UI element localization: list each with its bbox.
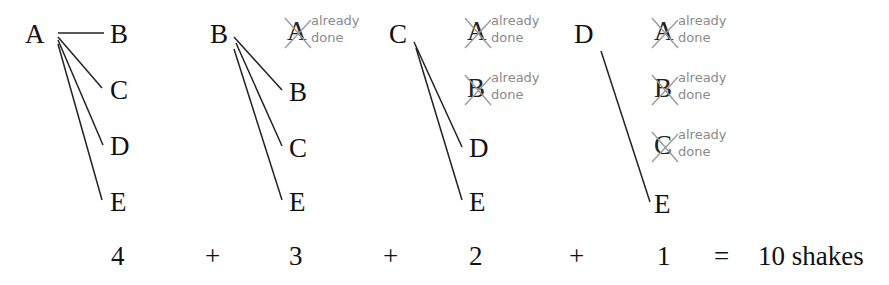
already-done-note: already done — [678, 69, 727, 103]
node-source-a: A — [25, 21, 45, 48]
cross-out-icon — [463, 73, 493, 107]
node-target: E — [289, 189, 306, 216]
connection-lines — [0, 0, 889, 285]
node-target: B — [110, 21, 128, 48]
already-done-marker: C already done — [654, 126, 744, 166]
already-done-note: already done — [678, 126, 727, 160]
equation-operator: + — [205, 243, 220, 270]
node-target: E — [469, 189, 486, 216]
cross-out-icon — [650, 130, 680, 164]
handshake-diagram: A B C D E B A already done B C E C A alr… — [0, 0, 889, 285]
node-target: E — [654, 191, 671, 218]
node-target: D — [469, 135, 489, 162]
node-source-b: B — [210, 21, 228, 48]
already-done-marker: A already done — [287, 12, 377, 52]
node-source-d: D — [574, 21, 594, 48]
node-target: C — [289, 135, 307, 162]
equation-result: 10 shakes — [758, 243, 864, 270]
equation-operator: + — [383, 243, 398, 270]
already-done-note: already done — [311, 12, 360, 46]
node-source-c: C — [389, 21, 407, 48]
already-done-marker: B already done — [654, 69, 744, 109]
equation-operator: + — [569, 243, 584, 270]
equation-term: 4 — [111, 243, 125, 270]
already-done-note: already done — [491, 69, 540, 103]
cross-out-icon — [463, 16, 493, 50]
equation-term: 2 — [469, 243, 483, 270]
already-done-marker: B already done — [467, 69, 557, 109]
already-done-marker: A already done — [467, 12, 557, 52]
node-target: B — [289, 79, 307, 106]
cross-out-icon — [650, 16, 680, 50]
already-done-note: already done — [491, 12, 540, 46]
cross-out-icon — [650, 73, 680, 107]
already-done-marker: A already done — [654, 12, 744, 52]
node-target: E — [110, 189, 127, 216]
node-target: D — [110, 133, 130, 160]
cross-out-icon — [283, 16, 313, 50]
node-target: C — [110, 77, 128, 104]
equation-term: 1 — [657, 243, 671, 270]
equation-equals: = — [714, 243, 729, 270]
already-done-note: already done — [678, 12, 727, 46]
equation-term: 3 — [289, 243, 303, 270]
